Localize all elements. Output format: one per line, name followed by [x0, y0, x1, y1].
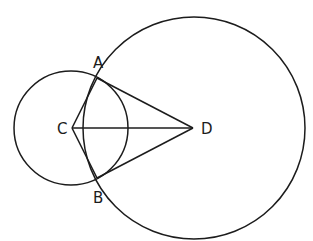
segment-bd	[97, 128, 193, 178]
label-a: A	[93, 54, 104, 72]
geometry-diagram: A B C D	[0, 0, 313, 241]
segment-ca	[72, 78, 97, 128]
segments	[72, 78, 193, 178]
segment-ad	[97, 78, 193, 128]
label-c: C	[57, 120, 67, 138]
label-b: B	[93, 189, 103, 207]
segment-cb	[72, 128, 97, 178]
label-d: D	[201, 120, 213, 138]
